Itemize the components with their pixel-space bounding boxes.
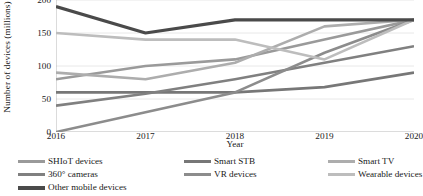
- legend-label: 360° cameras: [48, 169, 98, 180]
- series-line-shiot-devices: [56, 20, 414, 79]
- legend-label: VR devices: [214, 169, 257, 180]
- legend-item-shiot-devices[interactable]: SHIoT devices: [18, 156, 103, 167]
- y-tick-100: 100: [37, 61, 51, 71]
- legend-swatch-icon: [328, 160, 355, 163]
- series-line-other-mobile-devices: [56, 7, 414, 33]
- y-tick-50: 50: [42, 94, 51, 104]
- x-axis-title: Year: [56, 139, 414, 149]
- legend-swatch-icon: [328, 173, 355, 176]
- legend-item-vr-devices[interactable]: VR devices: [184, 169, 257, 180]
- y-tick-200: 200: [37, 0, 51, 5]
- legend-label: SHIoT devices: [48, 156, 103, 167]
- y-tick-150: 150: [37, 28, 51, 38]
- y-axis-tick-labels: 050100150200: [16, 0, 54, 152]
- legend-swatch-icon: [18, 173, 45, 176]
- plot-area: Number of devices (millions) 05010015020…: [0, 0, 419, 152]
- legend-swatch-icon: [184, 160, 211, 163]
- legend-item-wearable-devices[interactable]: Wearable devices: [328, 169, 422, 180]
- legend-label: Other mobile devices: [48, 182, 127, 193]
- y-axis-title: Number of devices (millions): [2, 0, 12, 122]
- legend-swatch-icon: [184, 173, 211, 176]
- legend-item-360-cameras[interactable]: 360° cameras: [18, 169, 98, 180]
- legend-swatch-icon: [18, 186, 45, 190]
- plot-canvas: [56, 0, 414, 132]
- legend-swatch-icon: [18, 160, 45, 163]
- legend-item-other-mobile-devices[interactable]: Other mobile devices: [18, 182, 127, 193]
- legend-item-smart-tv[interactable]: Smart TV: [328, 156, 394, 167]
- legend-label: Smart TV: [358, 156, 394, 167]
- legend-item-smart-stb[interactable]: Smart STB: [184, 156, 255, 167]
- legend-label: Wearable devices: [358, 169, 422, 180]
- chart-legend: SHIoT devicesSmart STBSmart TV360° camer…: [18, 156, 416, 194]
- legend-label: Smart STB: [214, 156, 255, 167]
